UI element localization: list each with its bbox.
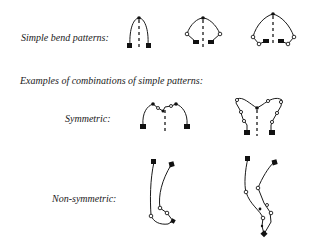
- bend-circle-icon: [261, 216, 265, 220]
- bend-circle-icon: [244, 190, 248, 194]
- bend-circle-icon: [158, 206, 162, 210]
- apex-dot-icon: [151, 102, 155, 106]
- bend-circle-icon: [269, 211, 273, 215]
- bend-circle-icon: [266, 99, 269, 102]
- bend-circle-icon: [242, 119, 245, 122]
- bend-circle-icon: [235, 98, 238, 101]
- end-square-icon: [269, 130, 275, 135]
- end-square-icon: [260, 230, 267, 237]
- bend-circle-icon: [256, 186, 260, 190]
- end-square-icon: [244, 130, 250, 135]
- simple-pattern-1: [127, 16, 151, 48]
- bend-circle-icon: [149, 214, 153, 218]
- apex-dot-icon: [271, 12, 275, 16]
- apex-dot-icon: [255, 106, 259, 110]
- apex-dot-icon: [174, 102, 178, 106]
- simple-pattern-3: [251, 12, 296, 46]
- bend-circle-icon: [257, 42, 261, 46]
- end-square-icon: [263, 39, 269, 43]
- bend-circle-icon: [157, 107, 160, 110]
- end-square-icon: [151, 159, 156, 164]
- bend-circle-icon: [292, 35, 296, 39]
- end-square-icon: [245, 156, 250, 161]
- end-square-icon: [193, 40, 199, 44]
- end-square-icon: [140, 124, 146, 129]
- end-square-icon: [278, 39, 284, 43]
- bend-circle-icon: [251, 35, 255, 39]
- joint-dot-icon: [261, 225, 263, 227]
- joint-dot-icon: [162, 110, 165, 113]
- end-square-icon: [184, 124, 190, 129]
- joint-dot-icon: [259, 208, 262, 211]
- end-square-icon: [127, 43, 132, 48]
- symmetric-combination-1: [140, 102, 190, 131]
- bend-circle-icon: [266, 204, 269, 207]
- bend-circle-icon: [165, 211, 169, 215]
- bend-circle-icon: [185, 32, 189, 36]
- apex-dot-icon: [201, 16, 205, 20]
- diagram-canvas: [0, 0, 311, 246]
- bend-circle-icon: [270, 120, 273, 123]
- end-square-icon: [146, 43, 151, 48]
- end-square-icon: [208, 40, 214, 44]
- bend-circle-icon: [239, 110, 242, 113]
- bend-circle-icon: [286, 42, 290, 46]
- bend-circle-icon: [218, 32, 222, 36]
- non-symmetric-combination-2: [244, 156, 277, 237]
- bend-circle-icon: [170, 105, 173, 108]
- end-square-icon: [272, 159, 278, 165]
- bend-circle-icon: [279, 100, 282, 103]
- end-square-icon: [169, 161, 175, 167]
- symmetric-combination-2: [235, 98, 282, 136]
- non-symmetric-combination-1: [149, 159, 176, 224]
- simple-pattern-2: [185, 16, 222, 48]
- bend-circle-icon: [275, 111, 278, 114]
- apex-dot-icon: [137, 16, 141, 20]
